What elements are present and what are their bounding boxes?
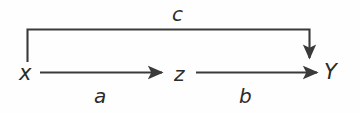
mediation-diagram: x z Y a b c: [0, 0, 360, 113]
edge-label-a: a: [94, 86, 106, 106]
node-label-x: x: [19, 63, 31, 84]
edge-label-b: b: [239, 86, 252, 106]
node-label-y: Y: [324, 62, 337, 83]
edge-label-c: c: [172, 4, 183, 24]
edge-c-path: [28, 30, 310, 63]
node-label-z: z: [174, 64, 185, 84]
